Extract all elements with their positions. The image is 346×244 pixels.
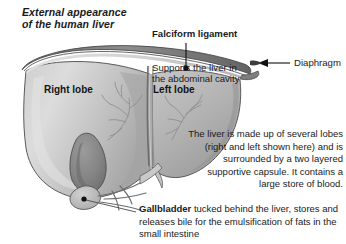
gallbladder-heading: Gallbladder (139, 203, 191, 214)
figure-title: External appearance of the human liver (22, 6, 127, 31)
diaphragm-arrow (250, 59, 290, 67)
liver-description-paragraph: The liver is made up of several lobes (r… (186, 128, 343, 191)
left-lobe-label: Left lobe (153, 84, 195, 96)
diaphragm-label: Diaphragm (294, 57, 341, 68)
gallbladder-shape (70, 133, 106, 209)
falciform-ligament-heading: Falciform ligament (152, 28, 239, 39)
right-lobe-label: Right lobe (44, 84, 93, 96)
falciform-ligament-body: Supports the liver in the abdominal cavi… (152, 62, 239, 85)
gallbladder-callout: Gallbladder tucked behind the liver, sto… (139, 203, 344, 241)
liver-diagram-figure: External appearance of the human liver F… (0, 0, 346, 244)
